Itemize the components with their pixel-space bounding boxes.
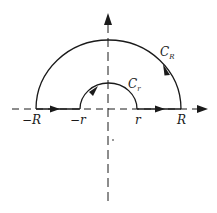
label-C-R: CR: [160, 45, 175, 61]
label-neg-r: −r: [70, 113, 87, 127]
dot: [112, 139, 114, 141]
arrow-right-icon: [155, 106, 165, 113]
real-axis-arrow-icon: [197, 105, 208, 113]
label-neg-R: −R: [22, 113, 41, 127]
imaginary-axis-arrow-icon: [104, 13, 112, 25]
contour-diagram: −R −r r R CR Cr: [0, 0, 217, 213]
label-pos-R: R: [176, 113, 186, 127]
arrow-right-icon: [50, 106, 60, 113]
label-C-r: Cr: [128, 77, 141, 93]
label-pos-r: r: [135, 113, 142, 127]
